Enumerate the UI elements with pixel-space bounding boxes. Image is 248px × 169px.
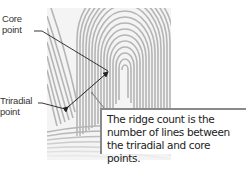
triradial-label-line-1: Triradial <box>0 95 32 106</box>
core-point-leader <box>34 31 108 71</box>
core-point-label: Core point <box>2 13 22 35</box>
caption-line-3: the triradial and core points. <box>107 139 246 165</box>
core-label-line-1: Core <box>2 13 22 24</box>
caption-box: The ridge count is the number of lines b… <box>100 108 246 154</box>
triradial-point-label: Triradial point <box>0 95 32 117</box>
triradial-label-line-2: point <box>0 106 32 117</box>
ridge-count-arrow <box>68 72 108 107</box>
caption-line-1: The ridge count is the <box>107 113 246 126</box>
core-label-line-2: point <box>2 24 22 35</box>
caption-pointer <box>92 93 104 108</box>
triradial-point-leader <box>38 103 65 109</box>
caption-line-2: number of lines between <box>107 126 246 139</box>
